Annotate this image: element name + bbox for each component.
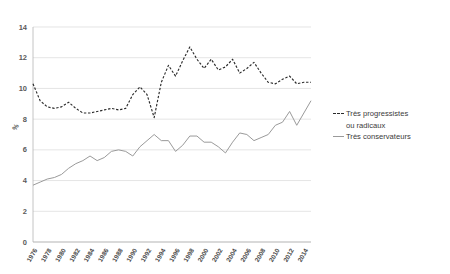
gridlines-group [33, 27, 311, 242]
chart-container: 02468101214 1976197819801982198419861988… [0, 0, 450, 274]
y-axis-tick-label: 10 [19, 84, 27, 93]
x-axis-tick-label: 2012 [282, 247, 295, 263]
dashed-line-swatch-icon [333, 108, 346, 120]
x-axis-tick-label: 2006 [239, 247, 252, 263]
legend-label-conservateurs: Très conservateurs [346, 131, 411, 143]
y-axis-tick-label: 0 [23, 238, 27, 247]
series-line-tres-conservateurs [33, 101, 311, 185]
solid-line-swatch-icon [333, 131, 346, 143]
x-axis-tick-label: 1992 [139, 247, 152, 263]
legend-item-progressistes: Très progressistes [333, 108, 448, 120]
y-axis-tick-labels: 02468101214 [19, 23, 28, 247]
x-axis-tick-label: 1994 [153, 247, 166, 263]
legend-label-progressistes-line2: ou radicaux [346, 121, 385, 130]
legend-item-conservateurs: Très conservateurs [333, 131, 448, 143]
x-axis-tick-label: 1982 [68, 247, 81, 263]
x-axis-tick-label: 2008 [253, 247, 266, 263]
y-axis-title: % [11, 122, 21, 132]
y-axis-tick-label: 2 [23, 207, 27, 216]
x-axis-tick-label: 1984 [82, 247, 95, 263]
legend-label-progressistes-line1: Très progressistes [346, 108, 408, 120]
x-axis-tick-label: 1990 [125, 247, 138, 263]
legend-label-progressistes-line2-row: ou radicaux [333, 120, 448, 132]
x-axis-tick-label: 1988 [111, 247, 124, 263]
x-axis-tick-label: 2002 [210, 247, 223, 263]
x-axis-tick-label: 2000 [196, 247, 209, 263]
y-axis-tick-label: 12 [19, 53, 27, 62]
x-axis-tick-label: 1996 [168, 247, 181, 263]
x-axis-tick-label: 2004 [225, 247, 238, 263]
y-axis-tick-label: 8 [23, 115, 27, 124]
x-axis-tick-label: 1986 [96, 247, 109, 263]
x-axis-tick-label: 2010 [267, 247, 280, 263]
chart-legend: Très progressistes ou radicaux Très cons… [333, 108, 448, 143]
x-axis-tick-label: 2014 [296, 247, 309, 263]
x-axis-tick-label: 1976 [25, 247, 38, 263]
x-axis-tick-label: 1998 [182, 247, 195, 263]
x-axis-tick-label: 1980 [54, 247, 67, 263]
x-axis-tick-labels: 1976197819801982198419861988199019921994… [25, 247, 309, 263]
x-axis-tick-label: 1978 [39, 247, 52, 263]
y-axis-tick-label: 14 [19, 23, 28, 32]
y-axis-tick-label: 6 [23, 145, 27, 154]
y-axis-tick-label: 4 [23, 176, 28, 185]
